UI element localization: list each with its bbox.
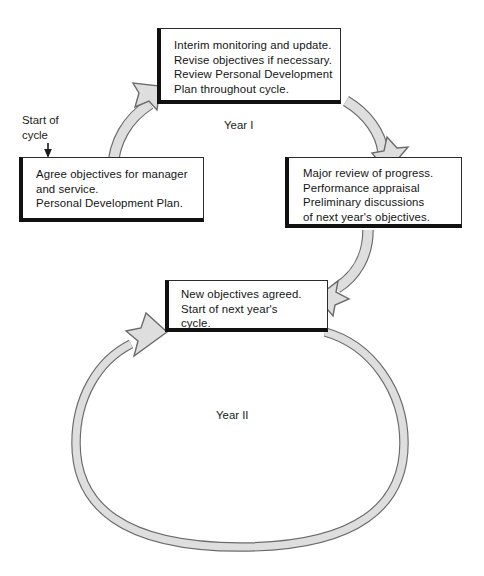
major-review-box-text: Major review of progress. Performance ap… bbox=[303, 166, 461, 224]
start-of-cycle-label: Start of cycle bbox=[22, 113, 59, 142]
connector-bottom-loop-icon bbox=[76, 313, 404, 547]
year-one-label: Year I bbox=[224, 118, 253, 133]
agree-objectives-box: Agree objectives for manager and service… bbox=[19, 157, 204, 222]
major-review-box: Major review of progress. Performance ap… bbox=[285, 157, 462, 228]
interim-monitoring-box-text: Interim monitoring and update. Revise ob… bbox=[174, 38, 340, 96]
new-objectives-box: New objectives agreed. Start of next yea… bbox=[165, 280, 328, 332]
year-two-label: Year II bbox=[216, 408, 249, 423]
interim-monitoring-box: Interim monitoring and update. Revise ob… bbox=[157, 28, 341, 104]
diagram-canvas: Interim monitoring and update. Revise ob… bbox=[0, 0, 484, 576]
agree-objectives-box-text: Agree objectives for manager and service… bbox=[36, 167, 203, 211]
new-objectives-box-text: New objectives agreed. Start of next yea… bbox=[181, 287, 327, 331]
entry-arrow-icon bbox=[44, 143, 52, 158]
